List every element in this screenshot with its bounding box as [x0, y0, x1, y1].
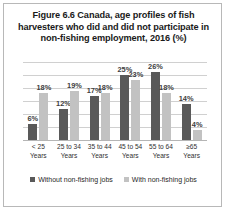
figure-card: Figure 6.6 Canada, age profiles of fish …	[3, 3, 222, 207]
bar-value-label: 19%	[65, 82, 84, 90]
x-axis-tick-label: ≥65Years	[176, 143, 207, 160]
bar	[101, 93, 110, 140]
legend-entry[interactable]: With non-fishing jobs	[124, 176, 197, 183]
bar	[90, 96, 99, 140]
legend-swatch-icon	[30, 177, 35, 182]
x-axis-tick-line: 55 to 64	[146, 143, 177, 152]
bar-group: 12%19%	[54, 62, 85, 140]
bar-value-label: 14%	[177, 95, 196, 103]
bar-group: 25%23%	[115, 62, 146, 140]
x-axis-tick-label: 25 to 34Years	[54, 143, 85, 160]
axis-baseline	[23, 140, 207, 141]
x-axis-tick-line: ≥65	[176, 143, 207, 152]
bar	[28, 124, 37, 140]
bar-group: 17%18%	[84, 62, 115, 140]
chart-legend: Without non-fishing jobsWith non-fishing…	[4, 176, 223, 183]
x-axis-tick-line: Years	[23, 152, 54, 161]
x-axis-tick-line: Years	[54, 152, 85, 161]
x-axis-tick-line: 45 to 54	[115, 143, 146, 152]
x-axis-tick-label: 55 to 64Years	[146, 143, 177, 160]
x-axis-tick-line: 25 to 34	[54, 143, 85, 152]
bar-value-label: 4%	[188, 121, 207, 129]
bar-value-label: 26%	[146, 63, 165, 71]
bar-value-label: 18%	[96, 84, 115, 92]
bar-value-label: 23%	[126, 71, 145, 79]
legend-entry[interactable]: Without non-fishing jobs	[30, 176, 113, 183]
page-title: Figure 6.6 Canada, age profiles of fish …	[12, 10, 215, 45]
legend-swatch-icon	[124, 177, 129, 182]
bar	[120, 75, 129, 140]
bar-group: 6%18%	[23, 62, 54, 140]
bar	[39, 93, 48, 140]
bar	[162, 93, 171, 140]
x-axis-labels: < 25Years25 to 34Years35 to 44Years45 to…	[23, 143, 207, 167]
x-axis-tick-line: 35 to 44	[84, 143, 115, 152]
x-axis-tick-label: 35 to 44Years	[84, 143, 115, 160]
x-axis-tick-line: Years	[176, 152, 207, 161]
x-axis-tick-line: < 25	[23, 143, 54, 152]
bar	[193, 130, 202, 140]
bar-group: 26%18%	[146, 62, 177, 140]
x-axis-tick-line: Years	[84, 152, 115, 161]
bar-value-label: 18%	[34, 84, 53, 92]
bar	[131, 80, 140, 140]
bars-layer: 6%18%12%19%17%18%25%23%26%18%14%4%	[23, 62, 207, 140]
bar	[59, 109, 68, 140]
legend-label: With non-fishing jobs	[132, 176, 197, 183]
bar-value-label: 18%	[157, 84, 176, 92]
legend-label: Without non-fishing jobs	[38, 176, 113, 183]
x-axis-tick-label: 45 to 54Years	[115, 143, 146, 160]
x-axis-tick-line: Years	[115, 152, 146, 161]
x-axis-tick-line: Years	[146, 152, 177, 161]
bar	[70, 91, 79, 140]
x-axis-tick-label: < 25Years	[23, 143, 54, 160]
bar-group: 14%4%	[176, 62, 207, 140]
